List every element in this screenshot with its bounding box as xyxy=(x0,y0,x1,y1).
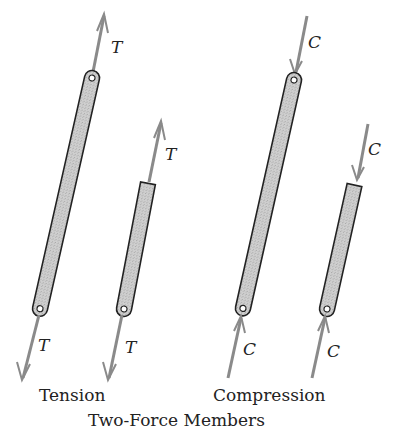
tension-arrow-bottom-icon xyxy=(103,315,122,380)
short-compression-member: C C xyxy=(312,124,381,378)
force-label-bottom: T xyxy=(125,337,138,357)
tension-arrow-bottom-icon xyxy=(17,315,39,380)
compression-caption: Compression xyxy=(213,385,326,405)
short-tension-member: T T xyxy=(103,121,178,380)
tension-arrow-top-icon xyxy=(93,14,108,72)
force-label-top: T xyxy=(111,37,124,57)
pin-hole-icon xyxy=(88,74,95,81)
pin-hole-icon xyxy=(36,305,43,312)
force-label-top: C xyxy=(308,32,321,52)
pin-hole-icon xyxy=(120,305,127,312)
force-label-top: C xyxy=(368,139,381,159)
compression-arrow-top-icon xyxy=(352,124,368,180)
compression-arrow-top-icon xyxy=(290,16,307,74)
tension-arrow-top-icon xyxy=(149,121,165,182)
pin-hole-icon xyxy=(323,305,330,312)
long-compression-member: C C xyxy=(228,16,321,378)
tension-caption: Tension xyxy=(39,385,105,405)
long-tension-member: T T xyxy=(17,14,124,380)
two-force-members-diagram: T T T T xyxy=(0,0,394,432)
force-label-bottom: T xyxy=(38,335,51,355)
diagram-title: Two-Force Members xyxy=(88,410,265,430)
force-label-bottom: C xyxy=(327,341,340,361)
pin-hole-icon xyxy=(290,76,297,83)
force-label-top: T xyxy=(165,144,178,164)
force-label-bottom: C xyxy=(243,339,256,359)
pin-hole-icon xyxy=(239,305,246,312)
